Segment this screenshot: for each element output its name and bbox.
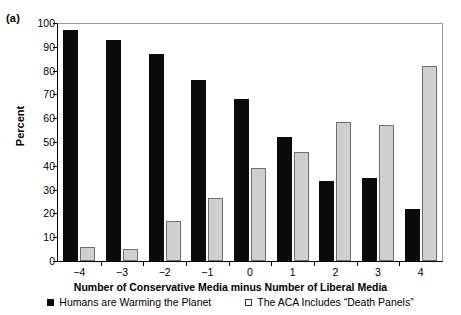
bar-light [208,198,223,261]
x-tick-label: −4 [64,266,94,278]
legend-swatch-icon-light [245,299,252,306]
bar-group [101,23,144,261]
x-tick-label: 0 [235,266,265,278]
bar-dark [405,209,420,261]
y-tick-label: 60 [0,112,55,124]
legend-item-series-1: Humans are Warming the Planet [47,296,211,308]
x-tick-mark [399,262,400,266]
bar-dark [277,137,292,261]
bar-dark [319,181,334,261]
bar-group [229,23,272,261]
x-axis-label: Number of Conservative Media minus Numbe… [0,281,461,293]
bar-light [80,247,95,261]
y-tick-label: 0 [0,255,55,267]
y-tick-label: 20 [0,207,55,219]
y-tick-mark [53,261,57,262]
x-tick-mark [186,262,187,266]
bar-group [58,23,101,261]
x-tick-mark [101,262,102,266]
bar-light [422,66,437,261]
x-tick-label: 2 [320,266,350,278]
x-tick-label: −2 [150,266,180,278]
y-tick-label: 50 [0,136,55,148]
y-tick-mark [53,118,57,119]
bar-dark [63,30,78,261]
x-tick-mark [271,262,272,266]
y-tick-mark [53,71,57,72]
bar-light [379,125,394,261]
y-tick-label: 100 [0,17,55,29]
y-tick-label: 90 [0,41,55,53]
bar-dark [149,54,164,261]
y-tick-label: 10 [0,231,55,243]
figure-panel: (a) Percent 0102030405060708090100 −4−3−… [0,0,461,315]
bar-light [336,122,351,261]
bar-group [399,23,442,261]
legend-swatch-icon-dark [47,299,54,306]
bar-group [357,23,400,261]
y-tick-label: 30 [0,184,55,196]
y-tick-mark [53,23,57,24]
x-tick-label: −3 [107,266,137,278]
bar-group [314,23,357,261]
x-tick-mark [357,262,358,266]
bar-dark [234,99,249,261]
legend-item-series-2: The ACA Includes “Death Panels” [245,296,413,308]
bars-layer [58,23,442,261]
bar-group [143,23,186,261]
y-tick-mark [53,213,57,214]
chart-legend: Humans are Warming the Planet The ACA In… [0,296,461,308]
y-tick-mark [53,190,57,191]
x-tick-label: 3 [363,266,393,278]
y-tick-mark [53,237,57,238]
bar-light [251,168,266,261]
bar-dark [362,178,377,261]
x-tick-label: −1 [192,266,222,278]
x-tick-mark [314,262,315,266]
y-tick-label: 80 [0,65,55,77]
x-tick-mark [229,262,230,266]
bar-light [294,152,309,261]
legend-label-series-2: The ACA Includes “Death Panels” [257,296,413,308]
y-tick-label: 70 [0,88,55,100]
bar-group [186,23,229,261]
y-tick-mark [53,47,57,48]
y-tick-mark [53,166,57,167]
bar-dark [191,80,206,261]
x-tick-label: 4 [406,266,436,278]
x-tick-label: 1 [278,266,308,278]
bar-light [123,249,138,261]
x-tick-mark [143,262,144,266]
y-tick-label: 40 [0,160,55,172]
bar-light [166,221,181,261]
legend-label-series-1: Humans are Warming the Planet [59,296,211,308]
bar-group [271,23,314,261]
y-tick-mark [53,94,57,95]
y-tick-mark [53,142,57,143]
bar-dark [106,40,121,261]
